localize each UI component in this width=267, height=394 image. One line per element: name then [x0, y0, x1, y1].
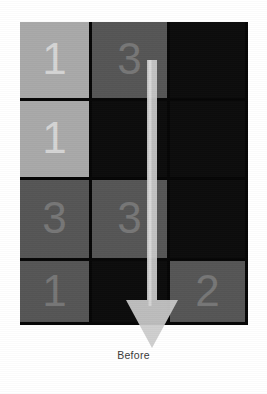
- tile-value: 3: [117, 196, 141, 240]
- grid-cell-r2c3[interactable]: [170, 101, 248, 180]
- grid-cell-r4c2[interactable]: [92, 261, 170, 325]
- grid-cell-r4c3[interactable]: 2: [170, 261, 248, 325]
- grid-cell-r3c1[interactable]: 3: [20, 180, 92, 261]
- grid-cell-r3c3[interactable]: [170, 180, 248, 261]
- tile-value: 1: [42, 37, 66, 81]
- grid-cell-r3c2[interactable]: 3: [92, 180, 170, 261]
- grid-board: 1 3 1 3 3: [20, 22, 248, 325]
- tile-value: 3: [117, 37, 141, 81]
- tile-value: 1: [42, 116, 66, 160]
- grid-cell-r2c1[interactable]: 1: [20, 101, 92, 180]
- grid-cell-r1c1[interactable]: 1: [20, 22, 92, 101]
- tile-value: 2: [195, 269, 219, 313]
- grid-cell-r1c2[interactable]: 3: [92, 22, 170, 101]
- tile-value: 1: [42, 269, 66, 313]
- grid-cell-r1c3[interactable]: [170, 22, 248, 101]
- tile-value: 3: [42, 196, 66, 240]
- figure-before-grid: 1 3 1 3 3: [0, 0, 267, 394]
- figure-caption: Before: [0, 349, 267, 361]
- grid-cell-r4c1[interactable]: 1: [20, 261, 92, 325]
- grid-cell-r2c2[interactable]: [92, 101, 170, 180]
- tile-grid: 1 3 1 3 3: [20, 22, 248, 325]
